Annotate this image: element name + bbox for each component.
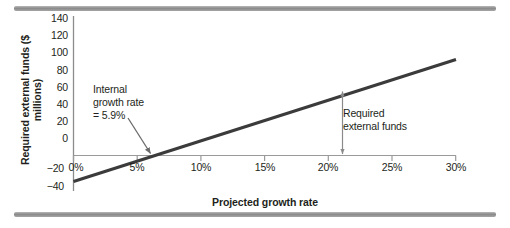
x-axis-title: Projected growth rate	[155, 196, 375, 208]
y-axis-title: Required external funds ($ millions)	[19, 15, 43, 185]
x-tick-label: 25%	[372, 161, 412, 173]
annotation-line: growth rate	[93, 96, 173, 109]
internal-growth-rate-annotation: Internal growth rate = 5.9%	[93, 83, 173, 122]
annotation-line: external funds	[343, 120, 438, 133]
x-tick-label: 5%	[117, 161, 157, 173]
x-tick-label: 15%	[245, 161, 285, 173]
annotation-line: Internal	[93, 83, 173, 96]
chart-plot-area: 140 120 100 80 60 40 20 0 −20 −40 0% 5% …	[0, 0, 510, 228]
x-tick-label: 20%	[308, 161, 348, 173]
x-tick-label: 0%	[56, 161, 96, 173]
annotation-line: = 5.9%	[93, 109, 173, 122]
internal-growth-rate-arrow	[128, 118, 151, 154]
x-tick-label: 10%	[181, 161, 221, 173]
required-external-funds-annotation: Required external funds	[343, 107, 438, 133]
x-tick-label: 30%	[436, 161, 476, 173]
annotation-line: Required	[343, 107, 438, 120]
